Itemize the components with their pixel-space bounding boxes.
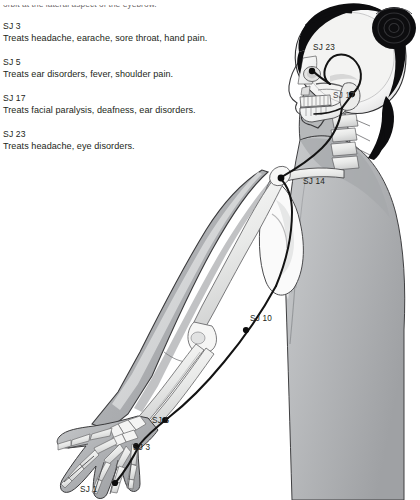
art-label-sj10: SJ 10 <box>250 314 272 323</box>
acupoint-sj23 <box>309 68 315 74</box>
acupoint-sj1 <box>112 480 118 486</box>
arm-bones <box>136 162 294 431</box>
head-group <box>289 3 416 160</box>
point-entry-sj3: SJ 3 Treats headache, earache, sore thro… <box>3 20 218 45</box>
torso-group <box>276 86 405 500</box>
point-code: SJ 17 <box>3 92 218 104</box>
art-label-sj14: SJ 14 <box>303 177 325 186</box>
spinous-processes <box>356 92 372 155</box>
art-label-sj17: SJ 17 <box>333 91 355 100</box>
text-column: orbit at the lateral aspect of the eyebr… <box>3 0 218 153</box>
acupoint-sj14 <box>278 175 285 182</box>
point-entry-sj23: SJ 23 Treats headache, eye disorders. <box>3 128 218 153</box>
point-code: SJ 23 <box>3 128 218 140</box>
point-code: SJ 3 <box>3 20 218 32</box>
hair-bun <box>372 7 416 49</box>
arm-soft-tissue <box>92 170 278 430</box>
point-entry-sj17: SJ 17 Treats facial paralysis, deafness,… <box>3 92 218 117</box>
acupoint-sj10 <box>243 327 249 333</box>
point-description: Treats headache, earache, sore throat, h… <box>3 32 218 45</box>
point-code: SJ 5 <box>3 56 218 68</box>
truncated-top-line: orbit at the lateral aspect of the eyebr… <box>3 0 218 9</box>
art-label-sj5: SJ 5 <box>152 416 169 425</box>
shoulder-bones <box>259 168 344 295</box>
page-root: orbit at the lateral aspect of the eyebr… <box>0 0 420 500</box>
art-label-sj1: SJ 1 <box>80 485 97 494</box>
point-description: Treats facial paralysis, deafness, ear d… <box>3 104 218 117</box>
art-label-sj23: SJ 23 <box>313 43 335 52</box>
point-description: Treats ear disorders, fever, shoulder pa… <box>3 68 218 81</box>
point-description: Treats headache, eye disorders. <box>3 140 218 153</box>
art-label-sj3: SJ 3 <box>133 443 150 452</box>
hand-group <box>57 416 158 499</box>
point-entry-sj5: SJ 5 Treats ear disorders, fever, should… <box>3 56 218 81</box>
